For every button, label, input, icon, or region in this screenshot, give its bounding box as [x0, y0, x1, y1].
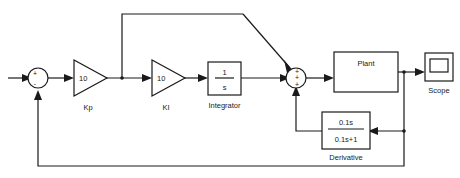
wire-plant-to-scope [398, 68, 425, 76]
summing-junction-pid[interactable]: + + + [286, 68, 306, 88]
derivative-block[interactable]: 0.1s 0.1s+1 [322, 112, 370, 149]
gain-block-ki[interactable]: 10 [152, 60, 185, 96]
wire-kp-to-ki [105, 74, 152, 82]
diagram-svg: + - 10 Kp 10 KI 1 s Integrator + + + [0, 0, 460, 178]
integrator-numerator: 1 [222, 68, 226, 77]
derivative-numerator: 0.1s [339, 118, 353, 127]
wire-error-to-kp [48, 74, 74, 82]
plant-label: Plant [357, 59, 375, 68]
integrator-block[interactable]: 1 s [208, 62, 241, 95]
plant-block[interactable]: Plant [334, 52, 398, 92]
scope-label: Scope [428, 86, 449, 95]
wire-integrator-to-sum2 [240, 74, 290, 82]
derivative-label: Derivative [329, 153, 362, 162]
sum2-mid-sign: + [295, 74, 299, 81]
kp-gain-value: 10 [79, 74, 87, 83]
derivative-denominator: 0.1s+1 [335, 135, 358, 144]
ki-gain-value: 10 [157, 74, 165, 83]
block-diagram-canvas: + - 10 Kp 10 KI 1 s Integrator + + + [0, 0, 460, 178]
kp-label: Kp [83, 103, 92, 112]
ki-label: KI [162, 103, 169, 112]
sum1-plus-sign: + [33, 70, 37, 77]
scope-block[interactable] [425, 53, 453, 81]
wire-derivative-to-sum2 [292, 86, 322, 131]
wire-ki-to-integrator [183, 74, 208, 82]
wire-sum2-to-plant [306, 74, 334, 82]
integrator-denominator: s [223, 83, 227, 92]
sum2-bottom-sign: + [295, 81, 299, 88]
summing-junction-error[interactable]: + - [28, 68, 48, 88]
integrator-label: Integrator [208, 101, 241, 110]
gain-block-kp[interactable]: 10 [74, 60, 107, 96]
